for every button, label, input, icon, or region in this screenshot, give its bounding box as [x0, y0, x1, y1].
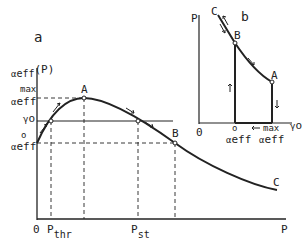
- b-alpha-zero-sup: o: [232, 124, 237, 133]
- b-alpha-max-sup: max: [263, 124, 279, 133]
- alpha-max-label: αeff: [11, 96, 36, 107]
- b-x-axis-label: γo: [290, 120, 302, 131]
- gamma-label: γo: [23, 113, 35, 124]
- alpha-zero-sup: o: [21, 131, 26, 140]
- alpha-max-sup: max: [20, 85, 36, 94]
- b-y-axis-label: P: [191, 13, 198, 24]
- b-point-b-label: B: [234, 30, 241, 41]
- p-thr-label: Pthr: [47, 224, 72, 235]
- hysteresis-diagram: a αeff(P) max αeff γo o αeff 0 Pthr Pst …: [0, 0, 307, 245]
- b-curve: [218, 15, 272, 82]
- a-y-axis-label: αeff(P): [11, 68, 54, 79]
- b-point-c-label: C: [211, 6, 218, 17]
- a-origin: 0: [33, 224, 40, 235]
- b-alpha-max-label: αeff: [259, 134, 284, 145]
- point-a-label: A: [81, 84, 88, 95]
- diagram-canvas: [0, 0, 307, 245]
- panel-a-label: a: [34, 30, 42, 44]
- b-alpha-zero-label: αeff: [226, 134, 251, 145]
- a-x-axis-label: P: [281, 224, 288, 235]
- b-origin: 0: [196, 127, 203, 138]
- point-c-label: C: [273, 177, 280, 188]
- alpha-zero-label: αeff: [11, 141, 36, 152]
- b-point-a-label: A: [271, 70, 278, 81]
- panel-b-label: b: [241, 10, 249, 23]
- point-b-label: B: [172, 128, 179, 139]
- p-st-label: Pst: [131, 224, 150, 235]
